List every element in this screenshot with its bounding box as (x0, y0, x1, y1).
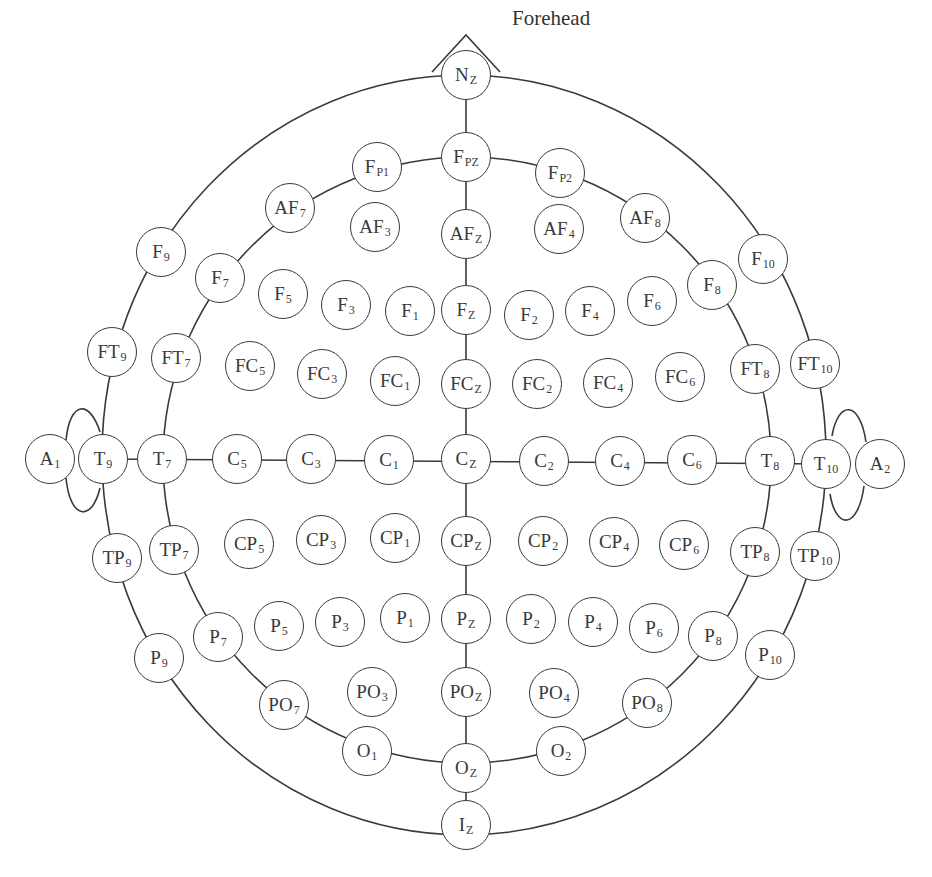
electrode-label: P (396, 607, 407, 629)
electrode-cz: CZ (441, 434, 491, 484)
electrode-label: C (534, 450, 547, 472)
electrode-label: C (301, 448, 314, 470)
electrode-subscript: 2 (546, 382, 552, 397)
electrode-f4: F4 (565, 286, 615, 336)
electrode-label: FT (797, 353, 819, 375)
electrode-label: C (227, 448, 240, 470)
electrode-label: F (152, 241, 163, 263)
electrode-o2: O2 (536, 726, 586, 776)
electrode-subscript: 7 (294, 703, 300, 718)
electrode-label: AF (450, 223, 474, 245)
electrode-label: FC (450, 373, 473, 395)
electrode-label: FT (97, 341, 119, 363)
electrode-f8: F8 (687, 260, 737, 310)
electrode-label: PO (268, 694, 292, 716)
electrode-subscript: 10 (770, 653, 782, 668)
electrode-label: AF (543, 218, 567, 240)
electrode-label: FC (380, 370, 403, 392)
electrode-subscript: 5 (286, 292, 292, 307)
electrode-label: AF (359, 216, 383, 238)
electrode-label: P (457, 608, 468, 630)
electrode-afz: AFZ (441, 209, 491, 259)
electrode-a2: A2 (855, 439, 905, 489)
electrode-label: CP (450, 530, 473, 552)
electrode-subscript: 9 (121, 350, 127, 365)
electrode-subscript: 7 (300, 206, 306, 221)
electrode-cpz: CPZ (441, 516, 491, 566)
electrode-tp9: TP9 (92, 533, 142, 583)
electrode-label: TP (797, 545, 819, 567)
electrode-p2: P2 (506, 594, 556, 644)
electrode-subscript: 10 (821, 362, 833, 377)
electrode-label: FC (665, 366, 688, 388)
electrode-label: PO (631, 692, 655, 714)
electrode-subscript: 8 (764, 367, 770, 382)
electrode-af8: AF8 (620, 193, 670, 243)
electrode-fcz: FCZ (441, 359, 491, 409)
electrode-f6: F6 (627, 276, 677, 326)
electrode-label: P (209, 626, 220, 648)
electrode-fz: FZ (441, 285, 491, 335)
electrode-subscript: 4 (623, 540, 629, 555)
electrode-p10: P10 (745, 630, 795, 680)
electrode-f7: F7 (195, 253, 245, 303)
electrode-f9: F9 (136, 227, 186, 277)
electrode-p5: P5 (254, 601, 304, 651)
electrode-subscript: 7 (165, 457, 171, 472)
electrode-label: FC (235, 355, 258, 377)
electrode-label: F (457, 299, 468, 321)
electrode-p8: P8 (688, 611, 738, 661)
electrode-cp4: CP4 (589, 517, 639, 567)
electrode-f10: F10 (738, 234, 788, 284)
electrode-subscript: 7 (223, 276, 229, 291)
electrode-p9: P9 (134, 633, 184, 683)
electrode-label: P (758, 644, 769, 666)
electrode-iz: IZ (441, 800, 491, 850)
electrode-af4: AF4 (534, 204, 584, 254)
electrode-fc5: FC5 (225, 341, 275, 391)
electrode-subscript: Z (475, 690, 482, 705)
electrode-subscript: 8 (655, 216, 661, 231)
electrode-subscript: 4 (624, 459, 630, 474)
electrode-c3: C3 (286, 434, 336, 484)
electrode-po8: PO8 (622, 678, 672, 728)
electrode-subscript: 8 (764, 550, 770, 565)
electrode-label: C (682, 449, 695, 471)
electrode-subscript: 10 (821, 554, 833, 569)
electrode-c5: C5 (212, 434, 262, 484)
electrode-label: FT (161, 347, 183, 369)
electrode-subscript: 6 (696, 458, 702, 473)
electrode-subscript: 1 (404, 379, 410, 394)
electrode-po7: PO7 (259, 680, 309, 730)
electrode-cp6: CP6 (659, 520, 709, 570)
electrode-label: PO (450, 681, 474, 703)
electrode-c1: C1 (364, 435, 414, 485)
electrode-label: F (211, 267, 222, 289)
electrode-f2: F2 (504, 290, 554, 340)
electrode-af3: AF3 (350, 202, 400, 252)
electrode-label: TP (740, 541, 762, 563)
electrode-subscript: 5 (258, 542, 264, 557)
electrode-subscript: 2 (532, 313, 538, 328)
electrode-label: FC (593, 372, 616, 394)
electrode-subscript: 1 (371, 749, 377, 764)
electrode-subscript: 8 (716, 634, 722, 649)
electrode-subscript: 8 (773, 459, 779, 474)
electrode-subscript: Z (466, 823, 473, 838)
electrode-label: F (365, 156, 376, 178)
electrode-f5: F5 (258, 269, 308, 319)
electrode-subscript: 5 (282, 624, 288, 639)
electrode-subscript: 3 (343, 620, 349, 635)
electrode-subscript: 10 (826, 462, 838, 477)
electrode-label: FC (307, 363, 330, 385)
electrode-subscript: Z (469, 457, 476, 472)
electrode-label: P (645, 617, 656, 639)
electrode-cp5: CP5 (224, 519, 274, 569)
electrode-label: F (548, 162, 559, 184)
electrode-subscript: 3 (330, 538, 336, 553)
electrode-subscript: 7 (183, 548, 189, 563)
electrode-subscript: 8 (715, 283, 721, 298)
electrode-c4: C4 (595, 436, 645, 486)
electrode-p1: P1 (380, 593, 430, 643)
electrode-label: T (761, 450, 773, 472)
